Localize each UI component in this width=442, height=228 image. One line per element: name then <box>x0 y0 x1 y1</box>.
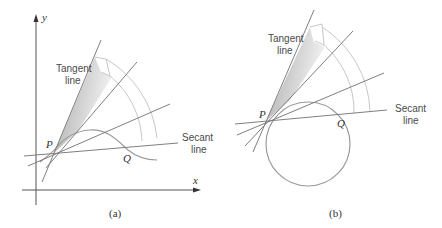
secant-line-3 <box>235 110 387 124</box>
rotation-arc-outer <box>322 27 370 111</box>
tangent-label-line2: line <box>277 45 293 56</box>
panel-b-caption: (b) <box>329 207 342 220</box>
tangent-line <box>253 10 314 152</box>
panel-a-caption: (a) <box>109 207 122 220</box>
y-axis-arrow-icon <box>34 14 39 22</box>
point-p-label: P <box>258 108 266 120</box>
secant-label-line1: Secant <box>395 103 426 114</box>
point-q-label: Q <box>123 152 131 164</box>
rotation-arc-outer <box>106 59 157 138</box>
x-axis-arrow-icon <box>193 188 201 193</box>
secant-line-2 <box>28 104 170 166</box>
panel-a: y x P Q Tangent line Secant line (a) <box>22 11 213 220</box>
tangent-label-line1: Tangent <box>268 33 304 44</box>
secant-label-line1: Secant <box>182 132 213 143</box>
y-axis-label: y <box>41 11 47 23</box>
secant-label-line2: line <box>191 144 207 155</box>
figure: y x P Q Tangent line Secant line (a) <box>0 0 442 228</box>
tangent-label-line2: line <box>65 75 81 86</box>
point-q-label: Q <box>337 117 345 129</box>
panel-b: P Q Tangent line Secant line (b) <box>235 10 426 220</box>
rotation-arc-inner <box>324 45 354 113</box>
secant-label-line2: line <box>403 115 419 126</box>
x-axis-label: x <box>192 174 198 186</box>
tangent-line <box>42 40 101 182</box>
tangent-label-line1: Tangent <box>56 63 92 74</box>
rotation-arc-inner <box>110 76 142 141</box>
secant-line-2 <box>237 73 384 135</box>
point-p-label: P <box>45 138 53 150</box>
